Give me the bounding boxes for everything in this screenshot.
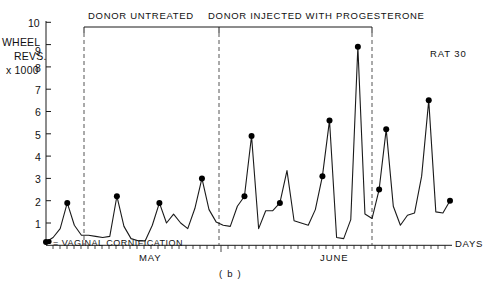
phase-bracket-donor-injected <box>219 27 372 33</box>
cornification-marker <box>277 200 283 206</box>
wheel-revs-series-line <box>46 47 450 242</box>
cornification-marker <box>64 200 70 206</box>
cornification-marker <box>383 126 389 132</box>
phase-bracket-donor-untreated <box>84 27 219 33</box>
cornification-marker <box>376 187 382 193</box>
cornification-marker <box>114 193 120 199</box>
cornification-marker <box>249 133 255 139</box>
cornification-marker <box>241 193 247 199</box>
cornification-marker <box>327 117 333 123</box>
cornification-marker <box>355 44 361 50</box>
cornification-marker <box>156 200 162 206</box>
cornification-marker <box>319 173 325 179</box>
cornification-marker <box>426 97 432 103</box>
cornification-markers <box>43 44 453 245</box>
chart-plot-area <box>0 0 485 288</box>
x-axis-ticks <box>53 245 445 252</box>
cornification-marker <box>447 198 453 204</box>
chart-figure: WHEEL REVS. x 1000 10 9 8 7 6 5 4 3 2 1 … <box>0 0 485 288</box>
y-axis-ticks <box>46 22 51 223</box>
cornification-marker <box>199 175 205 181</box>
legend-bullet-icon <box>46 239 51 244</box>
